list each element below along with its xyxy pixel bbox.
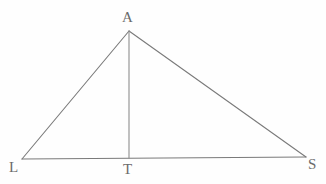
vertex-label-T: T: [123, 162, 132, 177]
vertex-label-S: S: [308, 157, 316, 172]
vertex-label-A: A: [122, 10, 133, 25]
vertex-label-L: L: [9, 160, 18, 175]
triangle-diagram-svg: [0, 0, 326, 184]
geometry-figure: A L T S: [0, 0, 326, 184]
figure-background: [0, 0, 326, 184]
